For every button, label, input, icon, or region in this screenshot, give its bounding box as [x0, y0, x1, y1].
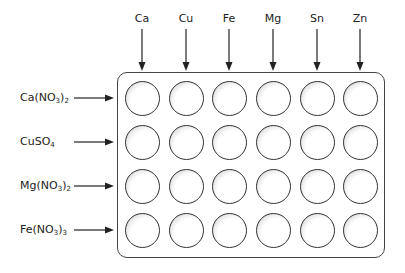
down-arrow-icon — [224, 29, 234, 71]
row-label-fe-no3-3: Fe(NO3)3 — [20, 224, 67, 239]
down-arrow-icon — [268, 29, 278, 71]
right-arrow-icon — [74, 181, 114, 191]
right-arrow-icon — [74, 93, 114, 103]
down-arrow-icon — [181, 29, 191, 71]
well — [212, 81, 247, 116]
well — [169, 81, 204, 116]
column-label-mg: Mg — [253, 12, 293, 25]
well — [212, 125, 247, 160]
well — [256, 213, 291, 248]
down-arrow-icon — [312, 29, 322, 71]
well — [256, 125, 291, 160]
well — [169, 125, 204, 160]
down-arrow-icon — [355, 29, 365, 71]
down-arrow-icon — [137, 29, 147, 71]
column-label-fe: Fe — [209, 12, 249, 25]
well — [256, 169, 291, 204]
well — [169, 169, 204, 204]
row-label-cuso4: CuSO4 — [20, 136, 55, 151]
well — [256, 81, 291, 116]
well — [343, 81, 378, 116]
well — [212, 169, 247, 204]
well — [125, 125, 160, 160]
column-label-cu: Cu — [166, 12, 206, 25]
well — [343, 213, 378, 248]
well — [169, 213, 204, 248]
well — [125, 169, 160, 204]
column-label-sn: Sn — [297, 12, 337, 25]
column-label-ca: Ca — [122, 12, 162, 25]
column-label-zn: Zn — [340, 12, 380, 25]
well — [343, 125, 378, 160]
well — [300, 125, 335, 160]
well — [300, 169, 335, 204]
well — [300, 213, 335, 248]
right-arrow-icon — [74, 137, 114, 147]
well — [212, 213, 247, 248]
right-arrow-icon — [74, 225, 114, 235]
row-label-ca-no3-2: Ca(NO3)2 — [20, 92, 69, 107]
well — [125, 81, 160, 116]
well — [300, 81, 335, 116]
row-label-mg-no3-2: Mg(NO3)2 — [20, 180, 71, 195]
well — [125, 213, 160, 248]
well — [343, 169, 378, 204]
